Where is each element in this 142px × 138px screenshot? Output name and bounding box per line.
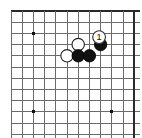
board-background: [0, 0, 142, 138]
stone-black[interactable]: [83, 50, 95, 62]
move-number-marker[interactable]: 1: [93, 31, 106, 44]
move-number-label: 1: [97, 32, 102, 42]
go-board-canvas[interactable]: 1: [0, 0, 142, 138]
stone-disc: [72, 50, 84, 62]
stone-white[interactable]: [72, 38, 84, 50]
star-point: [32, 32, 35, 35]
stone-disc: [83, 50, 95, 62]
stone-disc: [61, 50, 73, 62]
star-point: [32, 110, 35, 113]
stone-disc: [72, 38, 84, 50]
go-board-diagram: 1: [0, 0, 142, 138]
star-point: [110, 110, 113, 113]
stone-white[interactable]: [61, 50, 73, 62]
stone-black[interactable]: [72, 50, 84, 62]
